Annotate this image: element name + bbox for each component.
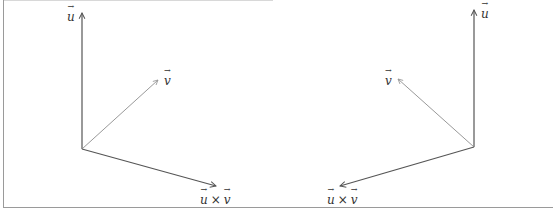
u-symbol: u bbox=[481, 8, 489, 20]
right-v-vector bbox=[398, 79, 474, 147]
v-symbol: v bbox=[224, 194, 231, 206]
left-v-vector bbox=[82, 80, 158, 149]
v-symbol: v bbox=[164, 75, 171, 87]
left-v-label: v bbox=[164, 75, 171, 87]
left-u-label: u bbox=[67, 11, 75, 23]
v-symbol: v bbox=[385, 75, 392, 87]
cross-operator: × bbox=[338, 193, 348, 207]
u-symbol: u bbox=[327, 194, 335, 206]
right-u-label: u bbox=[481, 8, 489, 20]
left-cross-label: u×v bbox=[200, 194, 231, 206]
left-cross-vector bbox=[82, 149, 216, 186]
right-cross-label: u×v bbox=[327, 194, 358, 206]
u-symbol: u bbox=[200, 194, 208, 206]
v-symbol: v bbox=[351, 194, 358, 206]
left-figure bbox=[82, 13, 216, 186]
right-figure bbox=[340, 10, 474, 186]
right-v-label: v bbox=[385, 75, 392, 87]
cross-operator: × bbox=[211, 193, 221, 207]
right-cross-vector bbox=[340, 147, 474, 186]
u-symbol: u bbox=[67, 11, 75, 23]
vector-diagrams bbox=[0, 0, 553, 210]
